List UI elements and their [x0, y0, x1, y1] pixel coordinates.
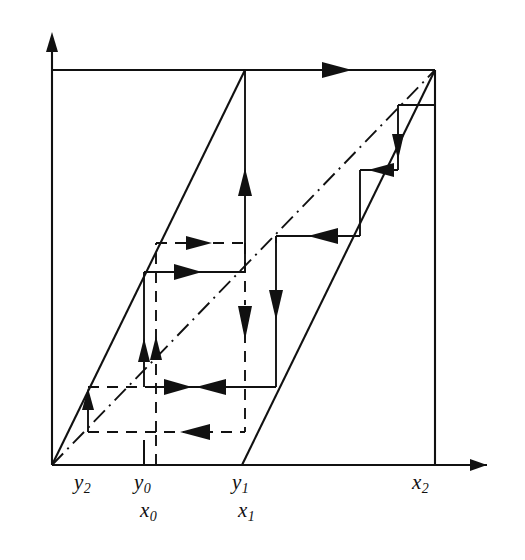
- axis-label-y2-sub: 2: [84, 481, 91, 496]
- arrow-left-lower-icon: [196, 379, 226, 395]
- arrow-left-step3-icon: [308, 228, 338, 244]
- x-axis-ticks-group: [144, 432, 435, 465]
- axis-label-y0-sub: 0: [144, 481, 151, 496]
- arrow-up-x0-solid-icon: [138, 338, 150, 362]
- identity-line-y-equals-x: [52, 70, 435, 465]
- axis-label-x2-base: x: [412, 470, 421, 494]
- axis-label-x1: x1: [238, 500, 254, 521]
- cobweb-diagram: y2 y0 y1 x2 x0 x1: [0, 0, 525, 560]
- map-branch-right: [242, 70, 435, 465]
- axis-label-y2-base: y: [74, 470, 83, 494]
- arrow-right-top-icon: [322, 62, 352, 78]
- arrow-right-solid-mid-icon: [174, 264, 202, 280]
- arrow-right-lower-icon: [164, 379, 192, 395]
- arrow-left-bottom-icon: [180, 424, 210, 440]
- axis-label-x2: x2: [412, 472, 428, 493]
- axis-label-x1-base: x: [238, 498, 247, 522]
- axis-label-y1-base: y: [232, 470, 241, 494]
- axis-label-x0: x0: [140, 500, 156, 521]
- arrow-up-y0-dashed-icon: [150, 336, 162, 360]
- axis-label-y1-sub: 1: [242, 481, 249, 496]
- arrow-down-step4-icon: [269, 290, 283, 320]
- axis-label-x1-sub: 1: [248, 509, 255, 524]
- arrow-left-step2-icon: [368, 163, 394, 177]
- arrow-up-x1-solid-icon: [238, 168, 252, 196]
- y-axis-arrow-icon: [46, 32, 58, 52]
- x-axis-arrow-icon: [470, 459, 487, 471]
- solid-orbit-group: [88, 70, 435, 432]
- axis-label-x2-sub: 2: [422, 481, 429, 496]
- axis-label-x0-base: x: [140, 498, 149, 522]
- axis-label-y0-base: y: [134, 470, 143, 494]
- axis-label-y2: y2: [74, 472, 90, 493]
- axis-label-y1: y1: [232, 472, 248, 493]
- axis-label-y0: y0: [134, 472, 150, 493]
- arrow-down-dashed-mid-icon: [238, 306, 252, 340]
- map-branch-left: [52, 70, 245, 465]
- arrow-right-dash-mid-icon: [186, 236, 212, 250]
- axis-label-x0-sub: 0: [150, 509, 157, 524]
